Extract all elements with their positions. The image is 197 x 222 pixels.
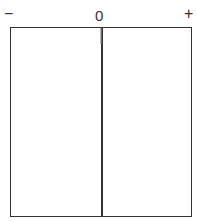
zero-label: 0 [95, 8, 103, 24]
negative-label: − [4, 6, 13, 22]
positive-label: + [184, 6, 193, 22]
zero-tick-mark [100, 28, 102, 44]
center-axis-line [101, 27, 103, 217]
